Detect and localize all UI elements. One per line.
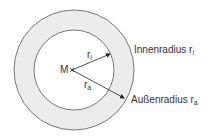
inner-radius-symbol: ri <box>87 50 92 61</box>
inner-circle <box>34 30 114 110</box>
outer-radius-symbol: ra <box>84 80 91 91</box>
center-label: M <box>60 65 68 75</box>
outer-radius-label: Außenradius ra <box>131 95 198 106</box>
inner-radius-label: Innenradius ri <box>134 45 194 56</box>
annulus-diagram <box>0 0 211 138</box>
